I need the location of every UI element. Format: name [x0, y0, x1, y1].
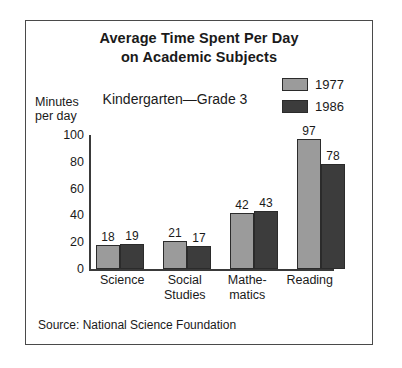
- y-axis-title: Minutes per day: [35, 95, 79, 123]
- category-label-line-1: Reading: [286, 273, 333, 287]
- bar-rect: [321, 164, 345, 269]
- bar-rect: [254, 211, 278, 269]
- y-axis-tick: 20: [45, 236, 89, 248]
- bar-1977: 97: [297, 135, 321, 269]
- bar-group: 1819: [96, 135, 144, 269]
- y-axis-tick: 60: [45, 183, 89, 195]
- legend-item-1977: 1977: [282, 75, 358, 93]
- bar-value-label: 18: [101, 231, 114, 243]
- bar-value-label: 97: [302, 125, 315, 137]
- category-label: Science: [91, 273, 154, 303]
- bar-group: 4243: [230, 135, 278, 269]
- bar-1986: 78: [321, 135, 345, 269]
- source-note: Source: National Science Foundation: [38, 318, 236, 332]
- bar-value-label: 42: [235, 199, 248, 211]
- bar-1977: 21: [163, 135, 187, 269]
- bar-rect: [120, 244, 144, 269]
- legend-item-1986: 1986: [282, 97, 358, 115]
- category-label-line-2: matics: [216, 288, 279, 303]
- bar-rect: [163, 241, 187, 269]
- y-axis-tick: 40: [45, 209, 89, 221]
- bar-1986: 17: [187, 135, 211, 269]
- bar-rect: [230, 213, 254, 269]
- bar-1977: 42: [230, 135, 254, 269]
- bar-groups: 1819211742439778: [91, 135, 364, 269]
- bar-value-label: 78: [326, 150, 339, 162]
- category-label-line-1: Social: [168, 273, 202, 287]
- bar-group: 9778: [297, 135, 345, 269]
- legend-label-1986: 1986: [315, 100, 344, 113]
- bar-group: 2117: [163, 135, 211, 269]
- y-axis-tick: 0: [45, 263, 89, 275]
- y-axis-title-line-1: Minutes: [35, 95, 79, 109]
- bar-rect: [187, 246, 211, 269]
- bar-1986: 43: [254, 135, 278, 269]
- category-label-line-2: Studies: [154, 288, 217, 303]
- y-axis-tick: 80: [45, 156, 89, 168]
- legend-swatch-1986: [282, 100, 308, 113]
- y-axis-title-line-2: per day: [35, 109, 79, 123]
- bar-value-label: 21: [168, 227, 181, 239]
- chart-title-line-1: Average Time Spent Per Day: [26, 29, 372, 48]
- bar-rect: [297, 139, 321, 269]
- bar-1986: 19: [120, 135, 144, 269]
- category-label-line-1: Mathe-: [228, 273, 267, 287]
- category-label-line-1: Science: [100, 273, 144, 287]
- chart-title-line-2: on Academic Subjects: [26, 48, 372, 67]
- chart-title: Average Time Spent Per Day on Academic S…: [26, 29, 372, 67]
- bar-value-label: 19: [125, 230, 138, 242]
- plot-area: 100806040200 1819211742439778: [62, 135, 352, 271]
- bar-1977: 18: [96, 135, 120, 269]
- legend-label-1977: 1977: [315, 78, 344, 91]
- category-label: Reading: [279, 273, 342, 303]
- bar-value-label: 43: [259, 197, 272, 209]
- x-axis-line: [89, 269, 334, 271]
- category-label: SocialStudies: [154, 273, 217, 303]
- legend-swatch-1977: [282, 78, 308, 91]
- bar-value-label: 17: [192, 232, 205, 244]
- category-label: Mathe-matics: [216, 273, 279, 303]
- chart-legend: 1977 1986: [282, 75, 358, 119]
- x-axis-categories: ScienceSocialStudiesMathe-maticsReading: [91, 273, 341, 303]
- bar-rect: [96, 245, 120, 269]
- y-axis-tick: 100: [45, 129, 89, 141]
- chart-figure: Average Time Spent Per Day on Academic S…: [25, 20, 373, 345]
